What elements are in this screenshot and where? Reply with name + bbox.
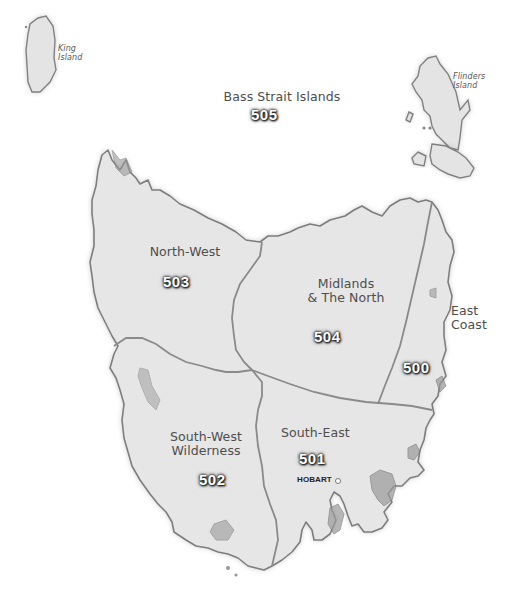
king-island-label: King Island: [58, 44, 82, 62]
north-west-label: North-West: [140, 245, 230, 259]
south-east-label: South-East: [281, 426, 350, 440]
bass-strait-label: Bass Strait Islands: [212, 90, 352, 104]
south-east-code[interactable]: 501: [299, 450, 326, 467]
midlands-code[interactable]: 504: [314, 328, 341, 345]
north-west-code[interactable]: 503: [163, 273, 190, 290]
south-west-label: South-West Wilderness: [156, 430, 256, 458]
east-coast-label: East Coast: [451, 304, 487, 332]
bass-strait-code[interactable]: 505: [251, 106, 278, 123]
hobart-label: HOBART: [297, 475, 332, 484]
hobart-marker-icon[interactable]: [335, 478, 341, 484]
south-west-code[interactable]: 502: [199, 471, 226, 488]
east-coast-code[interactable]: 500: [403, 359, 430, 376]
tasmania-mainland: [90, 150, 454, 577]
king-island[interactable]: [25, 16, 56, 92]
flinders-island-label: Flinders Island: [453, 72, 485, 90]
midlands-label: Midlands & The North: [296, 277, 396, 305]
